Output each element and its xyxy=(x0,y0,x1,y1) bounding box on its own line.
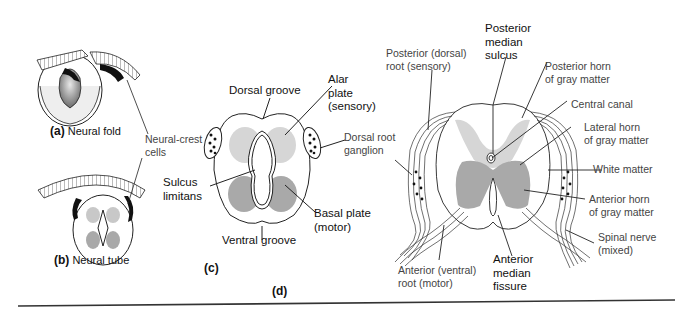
panel-b-caption: (b) Neural tube xyxy=(54,253,129,267)
label-white-matter: White matter xyxy=(593,163,653,176)
neural-tube-drawing xyxy=(38,175,145,265)
label-dorsal-root-ganglion: Dorsal rootganglion xyxy=(344,131,395,156)
label-basal-plate: Basal plate(motor) xyxy=(314,207,371,234)
label-ventral-groove: Ventral groove xyxy=(222,234,296,248)
diagram-artwork xyxy=(0,0,691,321)
label-anterior-root: Anterior (ventral)root (motor) xyxy=(398,264,476,289)
label-posterior-root: Posterior (dorsal)root (sensory) xyxy=(386,47,467,72)
label-posterior-median-sulcus: Posteriormediansulcus xyxy=(485,22,531,63)
label-neural-crest-cells: Neural-crestcells xyxy=(145,133,202,158)
label-central-canal: Central canal xyxy=(571,98,633,111)
label-sulcus-limitans: Sulcuslimitans xyxy=(163,176,202,203)
label-dorsal-groove: Dorsal groove xyxy=(229,84,301,98)
panel-c-caption: (c) xyxy=(204,261,219,275)
spinal-cord-section-drawing xyxy=(395,57,602,268)
label-anterior-horn: Anterior hornof gray matter xyxy=(589,193,654,218)
bottom-rule xyxy=(18,300,675,306)
label-anterior-median-fissure: Anteriormedianfissure xyxy=(493,253,533,294)
neural-fold-drawing xyxy=(37,50,140,126)
label-alar-plate: Alarplate(sensory) xyxy=(328,73,376,114)
panel-a-caption: (a) Neural fold xyxy=(50,124,121,138)
label-posterior-horn: Posterior hornof gray matter xyxy=(545,60,611,85)
label-spinal-nerve: Spinal nerve(mixed) xyxy=(598,231,656,256)
panel-d-caption: (d) xyxy=(272,284,287,298)
label-lateral-horn: Lateral hornof gray matter xyxy=(584,121,649,146)
